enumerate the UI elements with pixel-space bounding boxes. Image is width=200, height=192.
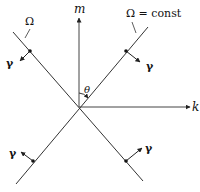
m-axis-label: m xyxy=(74,2,85,16)
theta-label: θ xyxy=(84,84,90,95)
gamma-vector-lower-left: γ xyxy=(9,147,35,163)
omega-leader xyxy=(25,29,30,38)
svg-text:γ: γ xyxy=(146,60,154,73)
omega-label: Ω xyxy=(25,15,34,28)
wave-vector-diagram: θ m k Ω Ω = const γ γ γ γ xyxy=(0,0,200,192)
k-axis-label: k xyxy=(192,100,199,114)
gamma-vector-upper-left: γ xyxy=(6,49,32,70)
svg-text:γ: γ xyxy=(145,142,153,155)
svg-text:γ: γ xyxy=(9,147,17,160)
omega-const-leader xyxy=(132,22,136,33)
gamma-vector-upper-right: γ xyxy=(124,49,154,73)
omega-const-label: Ω = const xyxy=(126,7,182,20)
svg-text:γ: γ xyxy=(6,57,14,70)
gamma-vector-lower-right: γ xyxy=(124,142,153,163)
omega-line-ascending xyxy=(16,27,148,184)
